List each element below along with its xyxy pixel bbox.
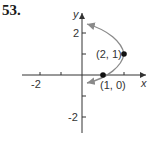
y-axis-label: y bbox=[72, 8, 80, 20]
x-axis-label: x bbox=[140, 77, 147, 89]
vertex-label: (2, 1) bbox=[96, 48, 122, 60]
x-tick-label-neg2: -2 bbox=[31, 78, 41, 90]
x-intercept-point bbox=[100, 72, 106, 78]
vertex-point bbox=[121, 51, 127, 57]
y-tick-label-neg2: -2 bbox=[68, 111, 78, 123]
graph: -2 2 -2 x y (2, 1) (1, 0) bbox=[0, 0, 158, 141]
x-intercept-label: (1, 0) bbox=[100, 79, 126, 91]
y-tick-label-2: 2 bbox=[73, 27, 79, 39]
